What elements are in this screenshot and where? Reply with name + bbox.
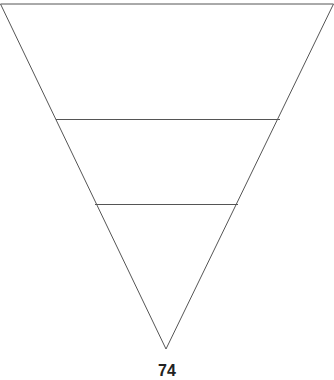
pyramid-outline (1, 4, 334, 349)
pyramid-caption: 74 (0, 362, 334, 380)
